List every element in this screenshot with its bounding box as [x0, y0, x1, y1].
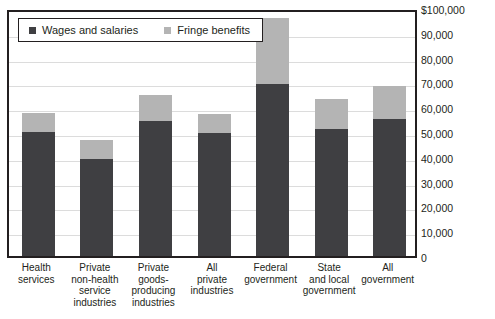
stacked-bar-chart: Wages and salaries Fringe benefits $100,…: [0, 0, 495, 319]
bar-segment-wages: [373, 119, 406, 256]
x-axis-category-label: Private goods- producing industries: [124, 262, 183, 308]
x-axis-category-label: Private non-health service industries: [66, 262, 125, 308]
bar-segment-fringe: [139, 95, 172, 121]
legend-swatch-fringe-icon: [164, 27, 171, 34]
bar-segment-fringe: [315, 99, 348, 129]
y-axis-tick-label: 60,000: [421, 103, 493, 115]
plot-area: [7, 10, 417, 258]
bar-segment-wages: [315, 129, 348, 256]
legend-label-fringe: Fringe benefits: [177, 24, 250, 36]
x-axis-category-label: All government: [358, 262, 417, 285]
bar-group: [256, 18, 289, 256]
x-axis-category-label: Federal government: [241, 262, 300, 285]
bar-segment-wages: [80, 159, 113, 256]
y-axis-tick-label: 80,000: [421, 54, 493, 66]
legend-entry-wages: Wages and salaries: [29, 24, 138, 36]
y-axis-tick-label: 90,000: [421, 29, 493, 41]
bar-segment-fringe: [80, 140, 113, 159]
bar-group: [315, 99, 348, 256]
y-axis-tick-label: 70,000: [421, 78, 493, 90]
bar-group: [139, 95, 172, 256]
legend-label-wages: Wages and salaries: [42, 24, 138, 36]
bar-segment-wages: [256, 84, 289, 256]
bar-segment-fringe: [198, 114, 231, 133]
bar-segment-wages: [198, 133, 231, 256]
y-axis-tick-label: 20,000: [421, 202, 493, 214]
y-axis: $100,00090,00080,00070,00060,00050,00040…: [421, 0, 493, 319]
bar-segment-wages: [139, 121, 172, 256]
legend-entry-fringe: Fringe benefits: [164, 24, 250, 36]
legend: Wages and salaries Fringe benefits: [18, 18, 263, 42]
bar-group: [373, 86, 406, 256]
x-axis-category-label: All private industries: [183, 262, 242, 297]
x-axis-category-label: Health services: [7, 262, 66, 285]
y-axis-tick-label: 0: [421, 252, 493, 264]
y-axis-tick-label: $100,000: [421, 4, 493, 16]
y-axis-tick-label: 10,000: [421, 227, 493, 239]
bars-layer: [9, 12, 415, 256]
bar-group: [80, 140, 113, 256]
x-axis: Health servicesPrivate non-health servic…: [7, 262, 417, 319]
x-axis-category-label: State and local government: [300, 262, 359, 297]
legend-swatch-wages-icon: [29, 27, 36, 34]
y-axis-tick-label: 40,000: [421, 153, 493, 165]
y-axis-tick-label: 50,000: [421, 128, 493, 140]
bar-group: [22, 113, 55, 256]
bar-segment-wages: [22, 132, 55, 256]
bar-group: [198, 114, 231, 256]
bar-segment-fringe: [22, 113, 55, 132]
y-axis-tick-label: 30,000: [421, 178, 493, 190]
bar-segment-fringe: [373, 86, 406, 119]
